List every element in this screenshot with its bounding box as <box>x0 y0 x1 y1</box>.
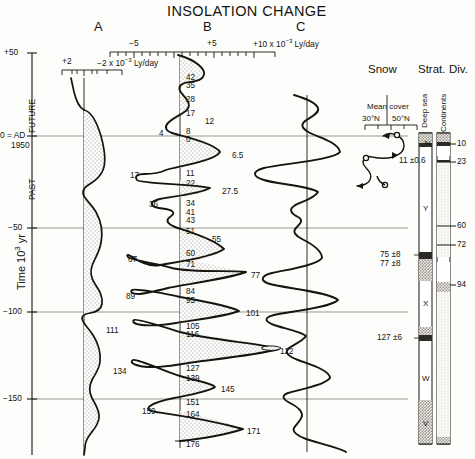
time-tick-minus100: −100 <box>3 307 22 315</box>
time-tick-minus150: −150 <box>3 394 22 402</box>
curve-b-age-label-right-28: 151 <box>186 399 200 407</box>
deep-sea-date-75: 75 ±8 <box>380 251 400 259</box>
deep-sea-stage-y: Y <box>423 205 428 213</box>
curve-b-age-label-right-24: 122 <box>280 348 294 356</box>
panel-letter-c: C <box>296 20 305 33</box>
curve-b-age-label-right-14: 51 <box>186 228 195 236</box>
continent-date-72: 72 <box>457 241 466 249</box>
snow-lat-50n: 50°N <box>392 115 410 123</box>
curve-b-age-label-left-1: 17 <box>130 172 139 180</box>
curve-b-age-label-left-7: 159 <box>142 408 156 416</box>
curve-b-age-label-right-26: 139 <box>186 375 200 383</box>
curve-b-age-label-right-11: 34 <box>186 200 195 208</box>
time-tick-zero-sub: 1950 <box>11 141 30 149</box>
deep-sea-date-77: 77 ±8 <box>380 260 400 268</box>
curve-b-age-label-right-3: 17 <box>186 110 195 118</box>
curve-b-age-label-left-3: 67 <box>128 256 137 264</box>
snow-mean-cover-label: Mean cover <box>367 103 409 111</box>
curve-b-age-label-right-2: 28 <box>186 96 195 104</box>
curve-b-age-label-right-13: 43 <box>186 217 195 225</box>
curve-b-age-label-right-4: 12 <box>205 118 214 126</box>
deep-sea-stage-v: V <box>423 420 428 428</box>
curve-b-age-label-left-5: 111 <box>106 327 118 335</box>
curve-b-age-label-left-2: 36 <box>149 201 158 209</box>
curve-b-age-label-right-10: 27.5 <box>222 188 238 196</box>
era-label-future: FUTURE <box>28 99 36 133</box>
deep-sea-date-127: 127 ±6 <box>377 334 402 342</box>
panel-letter-b: B <box>203 20 212 33</box>
scale-a-right-label: −2 x 10−3 Ly/day <box>97 57 158 67</box>
continent-date-23: 23 <box>457 158 466 166</box>
page-title: INSOLATION CHANGE <box>167 4 327 19</box>
curve-b-age-label-right-9: 22 <box>186 180 195 188</box>
curve-b-age-label-left-6: 134 <box>113 368 127 376</box>
continent-date-60: 60 <box>457 222 466 230</box>
curve-b-age-label-right-31: 176 <box>186 441 200 449</box>
continents-column-label: Continents <box>440 94 448 132</box>
time-axis-label: Time 103 yr <box>14 234 27 290</box>
curve-b-age-label-left-0: 4 <box>159 130 164 138</box>
curve-b-age-label-right-16: 60 <box>186 250 195 258</box>
continent-date-10: 10 <box>457 140 466 148</box>
curve-b-age-label-right-8: 11 <box>186 170 195 178</box>
header-snow: Snow <box>368 64 397 76</box>
snow-date-label: 11 ±0.6 <box>399 157 426 165</box>
deep-sea-stage-x: X <box>423 300 428 308</box>
time-tick-minus50: −50 <box>8 223 22 231</box>
curve-b-age-label-right-19: 84 <box>186 288 195 296</box>
header-strat: Strat. <box>418 64 445 76</box>
scale-b-tick-minus5: −5 <box>129 39 139 47</box>
deep-sea-stage-z: Z <box>424 140 432 145</box>
curve-b-age-label-right-29: 164 <box>186 411 200 419</box>
curve-b-age-label-right-15: 55 <box>212 236 221 244</box>
deep-sea-column-label: Deep sea <box>421 94 429 128</box>
snow-lat-30n: 30°N <box>362 115 380 123</box>
curve-b-age-label-left-4: 89 <box>126 293 135 301</box>
era-label-past: PAST <box>28 179 36 200</box>
curve-b-age-label-right-20: 95 <box>186 297 195 305</box>
curve-b-age-label-right-30: 171 <box>247 428 261 436</box>
time-tick-plus50: +50 <box>4 48 18 56</box>
scale-b-tick-plus5: +5 <box>207 39 217 47</box>
header-div: Div. <box>449 64 468 76</box>
curve-b-age-label-right-25: 127 <box>186 365 200 373</box>
deep-sea-stage-w: W <box>422 375 430 383</box>
curve-b-age-label-right-27: 145 <box>221 386 235 394</box>
curve-b-age-label-right-17: 71 <box>186 261 195 269</box>
continent-date-94: 94 <box>457 281 466 289</box>
curve-b-age-label-right-7: 6.5 <box>232 152 243 160</box>
curve-b-age-label-right-21: 101 <box>246 310 260 318</box>
curve-b-age-label-right-18: 77 <box>251 272 260 280</box>
curve-b-age-label-right-6: 0 <box>186 136 191 144</box>
scale-a-left-label: +2 <box>62 57 72 65</box>
curve-b-age-label-right-23: 116 <box>186 331 199 339</box>
panel-letter-a: A <box>94 20 103 33</box>
time-tick-zero: 0 = AD <box>0 131 25 139</box>
scale-b-tick-plus10: +10 x 10−3 Ly/day <box>253 38 319 48</box>
curve-b-age-label-right-1: 35 <box>186 82 195 90</box>
